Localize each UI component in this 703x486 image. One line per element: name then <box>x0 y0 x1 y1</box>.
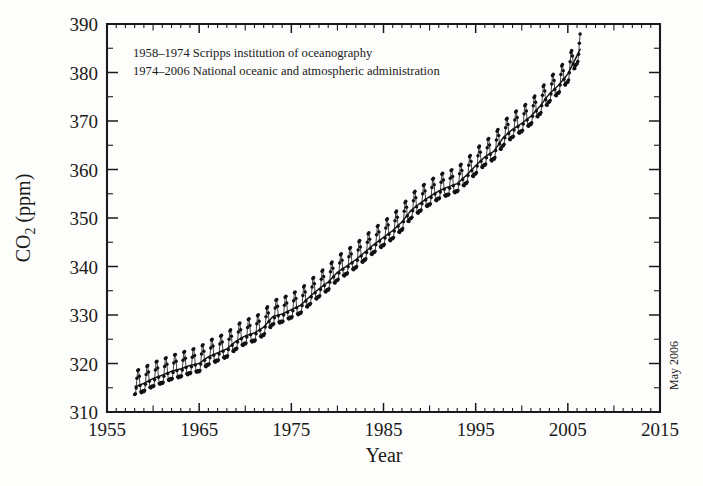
data-point <box>290 315 294 319</box>
data-point <box>174 353 178 357</box>
data-point <box>152 384 156 388</box>
data-point <box>469 160 473 164</box>
data-point <box>459 163 463 167</box>
data-point <box>359 245 363 249</box>
data-point <box>506 123 510 127</box>
data-point <box>310 285 314 289</box>
data-point <box>238 321 242 325</box>
data-point <box>558 90 562 94</box>
source-annotation-line-1: 1958–1974 Scripps institution of oceanog… <box>133 46 373 60</box>
data-point <box>395 209 399 213</box>
y-tick-label: 360 <box>70 160 99 181</box>
data-point <box>534 100 538 104</box>
data-point <box>571 54 575 58</box>
data-point <box>496 128 500 132</box>
data-point <box>396 216 400 220</box>
data-point <box>542 83 546 87</box>
data-point <box>201 343 205 347</box>
data-point <box>230 334 234 338</box>
data-point <box>559 73 563 77</box>
data-point <box>578 42 582 46</box>
data-point <box>276 305 280 309</box>
data-point <box>442 178 446 182</box>
data-point <box>567 78 571 82</box>
y-tick-label: 320 <box>70 354 99 375</box>
x-tick-label: 2015 <box>641 419 679 440</box>
data-point <box>576 60 580 64</box>
x-tick-label: 1955 <box>88 419 126 440</box>
data-point <box>515 116 519 120</box>
data-point <box>165 363 169 367</box>
data-point <box>451 175 455 179</box>
data-point <box>293 290 297 294</box>
data-point <box>239 328 243 332</box>
data-point <box>515 109 519 113</box>
data-point <box>161 381 165 385</box>
data-point <box>450 168 454 172</box>
data-point <box>392 236 396 240</box>
data-point <box>476 154 480 158</box>
data-point <box>502 143 506 147</box>
data-point <box>551 73 555 77</box>
data-point <box>336 278 340 282</box>
data-point <box>174 359 178 363</box>
data-point <box>404 199 408 203</box>
data-point <box>211 344 215 348</box>
data-point <box>432 177 436 181</box>
data-point <box>505 116 509 120</box>
data-point <box>521 129 525 133</box>
data-point <box>383 243 387 247</box>
data-point <box>330 260 334 264</box>
data-point <box>410 215 414 219</box>
data-point <box>419 208 423 212</box>
may-2006-side-note: May 2006 <box>667 341 681 390</box>
co2-chart-svg: 310320330340350360370380390 195519651975… <box>0 0 703 486</box>
data-point <box>414 196 418 200</box>
data-point <box>493 156 497 160</box>
x-tick-label: 1985 <box>365 419 403 440</box>
data-point <box>253 338 256 342</box>
data-point <box>405 205 409 209</box>
data-point <box>561 63 565 67</box>
data-point <box>155 360 159 364</box>
data-point <box>247 317 251 321</box>
data-point <box>386 223 390 227</box>
data-point <box>340 252 344 256</box>
data-point <box>329 270 333 274</box>
data-point <box>458 172 462 176</box>
chart-figure: 310320330340350360370380390 195519651975… <box>0 0 703 486</box>
data-point <box>331 267 335 271</box>
data-point <box>384 226 388 230</box>
x-tick-label: 1995 <box>457 419 495 440</box>
data-point <box>300 310 304 314</box>
data-point <box>192 347 196 351</box>
data-point <box>284 295 288 299</box>
data-point <box>570 49 574 53</box>
data-point <box>198 369 202 373</box>
y-tick-label: 390 <box>70 14 99 35</box>
data-point <box>138 375 142 379</box>
data-point <box>248 324 252 328</box>
data-point <box>497 134 501 138</box>
data-point <box>264 315 268 319</box>
data-point <box>447 192 451 196</box>
data-point <box>539 111 543 115</box>
data-point <box>524 103 528 107</box>
data-point <box>285 301 289 305</box>
data-point <box>301 294 305 298</box>
data-point <box>313 282 317 286</box>
data-point <box>422 183 426 187</box>
data-point <box>393 219 397 223</box>
data-point <box>412 199 416 203</box>
data-point <box>244 341 248 345</box>
data-point <box>413 190 417 194</box>
data-point <box>318 294 322 298</box>
data-point <box>193 354 197 358</box>
data-point <box>189 371 193 375</box>
data-point <box>456 189 460 193</box>
data-point <box>349 246 353 250</box>
data-point <box>465 180 469 184</box>
data-point <box>134 392 138 396</box>
data-point <box>541 93 545 97</box>
y-tick-label: 370 <box>70 111 99 132</box>
